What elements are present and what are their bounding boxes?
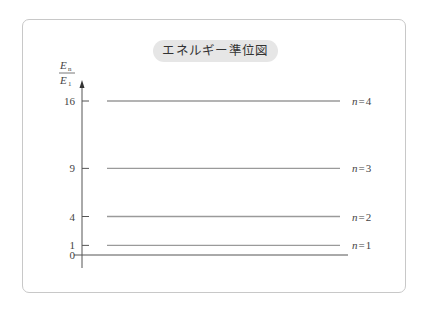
energy-level-label: n=1 xyxy=(352,239,371,251)
y-axis-label-numerator: E xyxy=(59,59,67,71)
y-axis-label: E n E 1 xyxy=(59,59,75,88)
y-tick-label: 4 xyxy=(70,211,76,223)
y-tick-label: 9 xyxy=(70,162,76,174)
y-axis-label-denominator-sub: 1 xyxy=(68,80,72,88)
energy-levels: n=1n=2n=3n=4 xyxy=(107,95,372,251)
y-axis-arrow-icon xyxy=(80,80,85,88)
y-tick-label: 16 xyxy=(64,95,76,107)
energy-level-label: n=4 xyxy=(352,95,372,107)
y-tick-label: 1 xyxy=(70,239,76,251)
y-ticks: 014916 xyxy=(64,95,89,261)
y-axis-label-denominator: E xyxy=(59,74,67,86)
energy-level-label: n=3 xyxy=(352,162,372,174)
energy-level-label: n=2 xyxy=(352,211,371,223)
energy-level-diagram: E n E 1 014916 n=1n=2n=3n=4 xyxy=(0,0,431,312)
y-axis-label-numerator-sub: n xyxy=(68,65,72,73)
